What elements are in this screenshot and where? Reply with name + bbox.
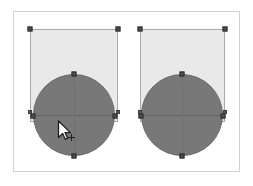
anchor-circle-top-inner-left	[73, 79, 76, 82]
handle-rect-top-left-right[interactable]	[138, 27, 143, 32]
screenshot-root	[0, 0, 253, 186]
handle-circle-left-right[interactable]	[139, 114, 144, 119]
handle-circle-right-left[interactable]	[113, 114, 118, 119]
drawing-canvas[interactable]	[13, 11, 240, 172]
handle-rect-top-right-left[interactable]	[116, 27, 121, 32]
anchor-circle-center-right	[181, 114, 184, 117]
handle-circle-bottom-right[interactable]	[180, 154, 185, 159]
handle-circle-top-right[interactable]	[180, 72, 185, 77]
handle-circle-right-right[interactable]	[221, 114, 226, 119]
anchor-circle-center-left	[73, 114, 76, 117]
anchor-circle-top-inner-right	[181, 79, 184, 82]
handle-rect-top-right-right[interactable]	[223, 27, 228, 32]
handle-circle-left-left[interactable]	[31, 114, 36, 119]
handle-circle-top-left[interactable]	[72, 72, 77, 77]
handle-circle-bottom-left[interactable]	[72, 154, 77, 159]
handle-rect-top-left-left[interactable]	[28, 27, 33, 32]
